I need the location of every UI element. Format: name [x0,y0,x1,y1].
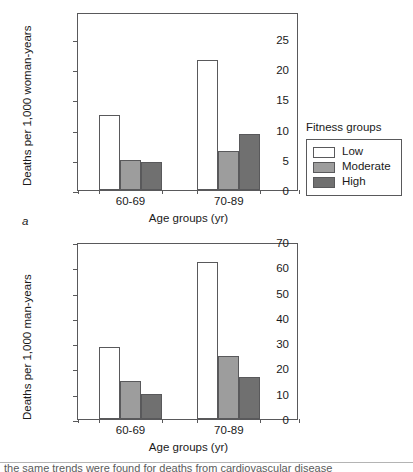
figure-bar-charts: Deaths per 1,000 woman-years 05101520256… [0,0,413,472]
bar-70-89-moderate [218,151,239,190]
y-axis-tick-label: 0 [283,186,289,198]
chart-panel-b: Deaths per 1,000 man-years 0102030405060… [0,236,413,472]
x-axis-tick-label: 70-89 [214,425,243,437]
y-axis-tick [73,71,78,72]
plot-area-b: 01020304050607060-6970-89Age groups (yr) [77,243,298,420]
x-axis-tick-label: 70-89 [214,196,243,208]
bar-60-69-moderate [120,381,141,419]
x-axis-tick [299,190,300,194]
page-bottom-text-sliver: the same trends were found for deaths fr… [0,462,413,472]
y-axis-tick [73,269,78,270]
y-axis-tick-label: 50 [276,289,289,301]
y-axis-tick [73,396,78,397]
bar-70-89-moderate [218,356,239,419]
x-axis-tick [260,419,261,423]
x-axis-tick-label: 60-69 [116,196,145,208]
y-axis-tick-label: 10 [276,126,289,138]
x-axis-tick [260,190,261,194]
y-axis-tick [73,162,78,163]
bar-60-69-low [99,347,120,419]
legend-swatch-high-icon [313,177,335,188]
y-axis-tick-label: 20 [276,365,289,377]
x-axis-tick [99,190,100,194]
y-axis-title-a: Deaths per 1,000 woman-years [22,26,34,186]
legend-swatch-low-icon [313,147,335,158]
x-axis-tick [162,190,163,194]
legend-title-a: Fitness groups [306,122,406,134]
y-axis-tick-label: 70 [276,238,289,250]
legend-item-high-a[interactable]: High [313,175,395,190]
y-axis-tick [73,244,78,245]
legend-label-moderate: Moderate [342,161,391,173]
plot-inner-b: 01020304050607060-6970-89Age groups (yr) [78,244,297,419]
y-axis-tick [73,320,78,321]
bottom-caption-fragment: the same trends were found for deaths fr… [4,463,332,472]
y-axis-tick-label: 60 [276,264,289,276]
chart-panel-a: Deaths per 1,000 woman-years 05101520256… [0,0,413,236]
y-axis-tick-label: 25 [276,35,289,47]
y-axis-tick-label: 5 [283,156,289,168]
bar-70-89-high [239,134,260,190]
x-axis-tick [162,419,163,423]
y-axis-tick [73,41,78,42]
x-axis-tick [197,190,198,194]
x-axis-tick [299,419,300,423]
plot-area-a: 051015202560-6970-89Age groups (yr) [77,13,298,191]
bar-70-89-high [239,377,260,419]
x-axis-tick [99,419,100,423]
legend-box-a: Low Moderate High [306,139,402,196]
y-axis-tick [73,295,78,296]
y-axis-tick [73,101,78,102]
y-axis-tick [73,370,78,371]
legend-swatch-moderate-icon [313,162,335,173]
y-axis-tick-label: 30 [276,339,289,351]
y-axis-tick [73,345,78,346]
x-axis-title: Age groups (yr) [78,213,299,225]
x-axis-tick [78,419,79,423]
x-axis-tick-label: 60-69 [116,425,145,437]
y-axis-tick-label: 15 [276,96,289,108]
bar-60-69-high [141,162,162,190]
x-axis-tick [197,419,198,423]
y-axis-tick-label: 10 [276,390,289,402]
x-axis-tick [78,190,79,194]
y-axis-tick-label: 0 [283,415,289,427]
bar-60-69-moderate [120,160,141,190]
bar-60-69-high [141,394,162,419]
panel-letter-a: a [22,216,28,228]
y-axis-tick-label: 20 [276,66,289,78]
x-axis-title: Age groups (yr) [78,442,299,454]
legend-a: Fitness groups Low Moderate High [306,122,406,196]
legend-item-low-a[interactable]: Low [313,145,395,160]
y-axis-title-b: Deaths per 1,000 man-years [22,274,34,420]
legend-label-low: Low [342,146,363,158]
y-axis-tick [73,132,78,133]
bar-60-69-low [99,115,120,190]
bar-70-89-low [197,262,218,419]
bar-70-89-low [197,60,218,190]
plot-inner-a: 051015202560-6970-89Age groups (yr) [78,14,297,190]
legend-item-moderate-a[interactable]: Moderate [313,160,395,175]
y-axis-tick-label: 40 [276,314,289,326]
legend-label-high: High [342,176,366,188]
